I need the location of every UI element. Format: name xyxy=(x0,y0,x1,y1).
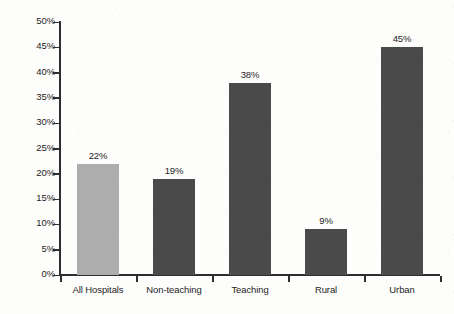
bar-value-label: 38% xyxy=(241,69,260,80)
y-axis-tick-label: 0% xyxy=(41,268,55,279)
y-axis-tick-label: 40% xyxy=(36,66,55,77)
y-axis-tick-label: 10% xyxy=(36,217,55,228)
y-axis-tick-label: 20% xyxy=(36,167,55,178)
bar[interactable]: 45% xyxy=(381,47,423,275)
y-axis-tick-label: 45% xyxy=(36,40,55,51)
y-axis-tick-mark xyxy=(53,97,59,99)
bar[interactable]: 19% xyxy=(153,179,195,275)
x-axis-category-label: Teaching xyxy=(231,284,268,295)
y-axis-tick-label: 30% xyxy=(36,116,55,127)
x-axis-category-label: Rural xyxy=(315,284,337,295)
y-axis-line xyxy=(59,21,61,276)
x-axis-tick-mark xyxy=(288,276,290,282)
x-axis-tick-mark xyxy=(440,276,442,282)
y-axis-tick-label: 5% xyxy=(41,243,55,254)
x-axis-tick-mark xyxy=(60,276,62,282)
x-axis-tick-mark xyxy=(136,276,138,282)
y-axis-tick-mark xyxy=(53,22,59,24)
y-axis-tick-mark xyxy=(53,275,59,277)
bar-value-label: 22% xyxy=(89,150,108,161)
bar-value-label: 45% xyxy=(393,33,412,44)
x-axis-category-label: Urban xyxy=(389,284,414,295)
y-axis-tick-mark xyxy=(53,72,59,74)
y-axis-tick-label: 25% xyxy=(36,142,55,153)
x-axis-category-label: All Hospitals xyxy=(73,284,124,295)
bar-value-label: 19% xyxy=(165,165,184,176)
y-axis-tick-mark xyxy=(53,47,59,49)
y-axis-tick-mark xyxy=(53,224,59,226)
x-axis-tick-mark xyxy=(212,276,214,282)
x-axis-category-label: Non-teaching xyxy=(146,284,201,295)
bar-chart: 50%45%40%35%30%25%20%15%10%5%0% 22%19%38… xyxy=(0,0,454,314)
x-axis-tick-mark xyxy=(364,276,366,282)
y-axis-tick-label: 35% xyxy=(36,91,55,102)
y-axis-tick-mark xyxy=(53,199,59,201)
bar[interactable]: 38% xyxy=(229,83,271,275)
bar[interactable]: 22% xyxy=(77,164,119,275)
bar[interactable]: 9% xyxy=(305,229,347,275)
y-axis-tick-mark xyxy=(53,148,59,150)
y-axis-tick-label: 50% xyxy=(36,15,55,26)
y-axis-tick-mark xyxy=(53,123,59,125)
y-axis-tick-mark xyxy=(53,249,59,251)
bar-value-label: 9% xyxy=(319,215,333,226)
y-axis-tick-mark xyxy=(53,173,59,175)
y-axis-tick-label: 15% xyxy=(36,192,55,203)
